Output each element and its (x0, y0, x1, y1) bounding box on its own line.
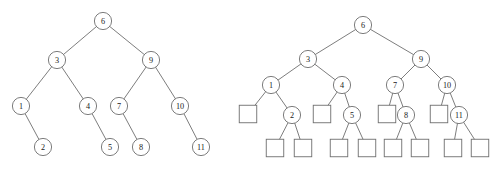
node-label: 4 (340, 81, 344, 90)
tree-edge (315, 64, 336, 80)
tree-node-6[interactable]: 6 (94, 12, 111, 29)
node-label: 2 (41, 143, 45, 152)
tree-edge (398, 93, 403, 107)
node-square-shape (239, 105, 257, 123)
tree-external-node[interactable] (444, 139, 462, 157)
tree-external-node[interactable] (358, 139, 376, 157)
node-square-shape (294, 139, 312, 157)
tree-external-node[interactable] (430, 105, 448, 123)
tree-edge (63, 26, 96, 54)
tree-node-4[interactable]: 4 (333, 76, 350, 93)
tree-diagram-canvas: 63914710258116391471025811 (0, 0, 493, 171)
tree-edge (92, 113, 106, 139)
tree-edge (62, 67, 84, 99)
tree-edge (184, 113, 197, 139)
tree-edge (295, 123, 301, 140)
tree-node-8[interactable]: 8 (397, 106, 414, 123)
tree-node-2[interactable]: 2 (283, 106, 300, 123)
tree-edge (327, 92, 338, 107)
node-label: 9 (419, 55, 423, 64)
tree-node-5[interactable]: 5 (101, 138, 118, 155)
tree-node-6[interactable]: 6 (354, 16, 371, 33)
node-label: 5 (350, 111, 354, 120)
tree-edge (25, 113, 39, 139)
node-label: 1 (269, 81, 273, 90)
tree-node-10[interactable]: 10 (171, 97, 188, 114)
tree-external-node[interactable] (330, 139, 348, 157)
tree-edge (279, 122, 288, 140)
tree-node-2[interactable]: 2 (34, 138, 51, 155)
tree-edge (450, 93, 456, 108)
node-label: 8 (139, 143, 143, 152)
node-label: 11 (197, 143, 205, 152)
binary-tree-figure: 63914710258116391471025811 (0, 0, 493, 171)
node-label: 11 (455, 111, 463, 120)
tree-edge (123, 113, 137, 139)
tree-edge (427, 65, 441, 79)
tree-node-7[interactable]: 7 (110, 97, 127, 114)
tree-edge (342, 123, 349, 141)
tree-node-8[interactable]: 8 (132, 138, 149, 155)
tree-external-node[interactable] (378, 105, 396, 123)
tree-node-9[interactable]: 9 (412, 50, 429, 67)
node-square-shape (330, 139, 348, 157)
node-square-shape (358, 139, 376, 157)
node-square-shape (378, 105, 396, 123)
tree-edge (401, 65, 415, 79)
tree-node-3[interactable]: 3 (299, 50, 316, 67)
tree-node-1[interactable]: 1 (12, 97, 29, 114)
node-square-shape (411, 139, 429, 157)
tree-edge (409, 123, 416, 141)
tree-edge (455, 123, 458, 140)
node-square-shape (266, 139, 284, 157)
tree-node-1[interactable]: 1 (262, 76, 279, 93)
node-label: 7 (393, 81, 397, 90)
tree-node-4[interactable]: 4 (79, 97, 96, 114)
node-label: 10 (176, 102, 184, 111)
node-label: 4 (86, 102, 90, 111)
tree-node-7[interactable]: 7 (386, 76, 403, 93)
tree-node-10[interactable]: 10 (438, 76, 455, 93)
tree-external-node[interactable] (239, 105, 257, 123)
binary-tree-internal-nodes-only: 6391471025811 (12, 12, 209, 155)
node-label: 8 (404, 111, 408, 120)
tree-edge (315, 29, 356, 54)
tree-edge (155, 67, 175, 99)
tree-external-node[interactable] (266, 139, 284, 157)
tree-edges (25, 26, 197, 140)
tree-external-node[interactable] (313, 105, 331, 123)
node-label: 6 (361, 21, 365, 30)
tree-external-node[interactable] (411, 139, 429, 157)
tree-node-3[interactable]: 3 (48, 51, 65, 68)
node-label: 1 (19, 102, 23, 111)
node-label: 2 (290, 111, 294, 120)
tree-node-11[interactable]: 11 (192, 138, 209, 155)
node-square-shape (313, 105, 331, 123)
tree-edge (389, 93, 393, 106)
tree-edge (276, 92, 288, 108)
tree-node-5[interactable]: 5 (343, 106, 360, 123)
tree-edge (26, 67, 52, 100)
binary-tree-with-external-square-nodes: 6391471025811 (239, 16, 489, 156)
tree-edge (345, 93, 350, 107)
tree-edge (109, 26, 144, 55)
node-label: 5 (108, 143, 112, 152)
tree-edge (355, 123, 363, 141)
node-label: 7 (117, 102, 121, 111)
tree-external-node[interactable] (384, 139, 402, 157)
node-label: 3 (306, 55, 310, 64)
node-square-shape (430, 105, 448, 123)
node-label: 10 (443, 81, 451, 90)
tree-edge (463, 122, 475, 141)
tree-edge (124, 67, 147, 99)
tree-node-9[interactable]: 9 (142, 51, 159, 68)
tree-edge (441, 93, 445, 106)
tree-external-node[interactable] (471, 139, 489, 157)
tree-node-11[interactable]: 11 (450, 106, 467, 123)
node-label: 3 (55, 56, 59, 65)
node-square-shape (384, 139, 402, 157)
node-label: 9 (149, 56, 153, 65)
tree-nodes: 6391471025811 (239, 16, 489, 156)
tree-external-node[interactable] (294, 139, 312, 157)
node-label: 6 (101, 17, 105, 26)
